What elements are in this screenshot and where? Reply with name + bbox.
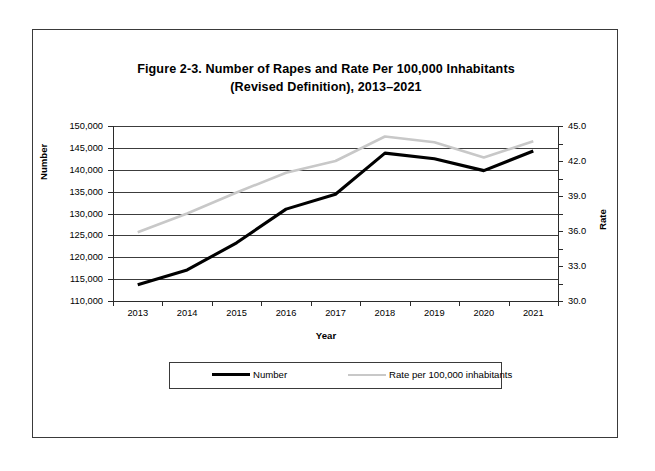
y-axis-right-ticklabel: 36.0 bbox=[568, 226, 608, 236]
x-axis-tick bbox=[113, 301, 114, 306]
y-axis-right-ticklabel: 33.0 bbox=[568, 261, 608, 271]
y-axis-right-tick bbox=[558, 144, 563, 145]
plot-area bbox=[113, 126, 558, 301]
x-axis-tick bbox=[459, 301, 460, 306]
chart-title-line-1: Figure 2-3. Number of Rapes and Rate Per… bbox=[137, 62, 515, 76]
series-line-number bbox=[138, 151, 534, 285]
chart-title-line-2: (Revised Definition), 2013–2021 bbox=[33, 78, 619, 96]
y-axis-right-tick bbox=[558, 249, 563, 250]
legend-item-rate: Rate per 100,000 inhabitants bbox=[348, 369, 512, 380]
y-axis-right-ticklabel: 39.0 bbox=[568, 191, 608, 201]
y-axis-left-tick bbox=[108, 214, 113, 215]
y-axis-left-tick bbox=[108, 126, 113, 127]
x-axis-tick bbox=[558, 301, 559, 306]
x-axis-tick bbox=[360, 301, 361, 306]
y-axis-right-ticklabel: 30.0 bbox=[568, 296, 608, 306]
x-axis-ticklabel: 2021 bbox=[508, 308, 558, 319]
series-line-rate bbox=[138, 137, 534, 233]
y-axis-left-ticklabel: 120,000 bbox=[41, 252, 103, 262]
y-axis-left-tick bbox=[108, 279, 113, 280]
y-axis-left-ticklabel: 130,000 bbox=[41, 209, 103, 219]
x-axis-tick bbox=[311, 301, 312, 306]
legend-item-number: Number bbox=[212, 369, 287, 380]
y-axis-left-ticklabel: 110,000 bbox=[41, 296, 103, 306]
chart-title: Figure 2-3. Number of Rapes and Rate Per… bbox=[33, 60, 619, 96]
plot-bottom-axis bbox=[113, 301, 558, 302]
x-axis-ticklabel: 2014 bbox=[162, 308, 212, 319]
x-axis-tick bbox=[212, 301, 213, 306]
y-axis-right-tick bbox=[558, 196, 563, 197]
y-axis-left-tick bbox=[108, 170, 113, 171]
y-axis-left-ticklabel: 135,000 bbox=[41, 187, 103, 197]
x-axis-tick bbox=[509, 301, 510, 306]
x-axis-tick bbox=[261, 301, 262, 306]
y-axis-left-ticklabel: 140,000 bbox=[41, 165, 103, 175]
x-axis-ticklabel: 2017 bbox=[311, 308, 361, 319]
y-axis-left-tick bbox=[108, 257, 113, 258]
legend-swatch-rate-icon bbox=[348, 374, 386, 376]
legend-swatch-number-icon bbox=[212, 373, 250, 376]
y-axis-right-tick bbox=[558, 284, 563, 285]
y-axis-left-tick bbox=[108, 192, 113, 193]
y-axis-right-tick bbox=[558, 179, 563, 180]
legend-label-rate: Rate per 100,000 inhabitants bbox=[389, 369, 512, 380]
y-axis-right-tick bbox=[558, 266, 563, 267]
y-axis-left-ticklabel: 115,000 bbox=[41, 274, 103, 284]
x-axis-title: Year bbox=[33, 330, 619, 341]
x-axis-ticklabel: 2013 bbox=[113, 308, 163, 319]
legend-label-number: Number bbox=[253, 369, 287, 380]
x-axis-tick bbox=[162, 301, 163, 306]
x-axis-ticklabel: 2020 bbox=[459, 308, 509, 319]
legend: Number Rate per 100,000 inhabitants bbox=[169, 362, 502, 389]
x-axis-ticklabel: 2015 bbox=[212, 308, 262, 319]
y-axis-left-ticklabel: 150,000 bbox=[41, 121, 103, 131]
y-axis-right-ticklabel: 42.0 bbox=[568, 156, 608, 166]
y-axis-right-ticklabel: 45.0 bbox=[568, 121, 608, 131]
y-axis-left-tick bbox=[108, 148, 113, 149]
figure-frame: Figure 2-3. Number of Rapes and Rate Per… bbox=[32, 29, 618, 438]
series-lines bbox=[113, 126, 558, 301]
y-axis-right-tick bbox=[558, 126, 563, 127]
x-axis-ticklabel: 2016 bbox=[261, 308, 311, 319]
x-axis-ticklabel: 2018 bbox=[360, 308, 410, 319]
y-axis-right-tick bbox=[558, 231, 563, 232]
y-axis-left-ticklabel: 145,000 bbox=[41, 143, 103, 153]
y-axis-right-tick bbox=[558, 161, 563, 162]
y-axis-left-ticklabel: 125,000 bbox=[41, 230, 103, 240]
x-axis-tick bbox=[410, 301, 411, 306]
x-axis-ticklabel: 2019 bbox=[409, 308, 459, 319]
y-axis-left-tick bbox=[108, 235, 113, 236]
y-axis-right-tick bbox=[558, 214, 563, 215]
